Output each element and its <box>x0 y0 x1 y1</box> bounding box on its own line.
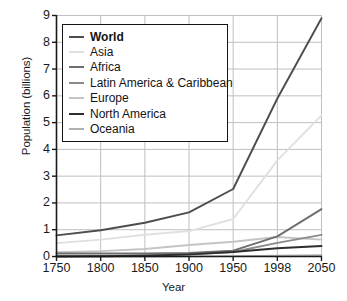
y-tick-label: 2 <box>34 196 50 209</box>
legend-item-north-america[interactable]: North America <box>69 106 222 121</box>
y-tick-label: 8 <box>34 36 50 49</box>
x-tick-label: 2050 <box>299 262 345 275</box>
x-tick-label: 1950 <box>210 262 256 275</box>
legend-swatch-icon <box>69 66 84 68</box>
legend-item-asia[interactable]: Asia <box>69 44 222 59</box>
legend-swatch-icon <box>69 36 84 38</box>
legend-item-label: Latin America & Caribbean <box>90 77 233 89</box>
y-tick-label: 7 <box>34 63 50 76</box>
x-tick-label: 1998 <box>254 262 300 275</box>
y-axis-title: Population (billions) <box>20 6 32 206</box>
x-tick-label: 1750 <box>34 262 80 275</box>
y-tick-label: 1 <box>34 223 50 236</box>
legend: WorldAsiaAfricaLatin America & Caribbean… <box>62 24 228 142</box>
x-tick-label: 1900 <box>166 262 212 275</box>
y-tick-label: 6 <box>34 89 50 102</box>
legend-item-label: North America <box>90 108 166 120</box>
x-axis-title: Year <box>0 281 347 293</box>
y-tick-label: 3 <box>34 170 50 183</box>
legend-item-label: Europe <box>90 92 129 104</box>
legend-item-oceania[interactable]: Oceania <box>69 121 222 136</box>
legend-swatch-icon <box>69 97 84 99</box>
legend-swatch-icon <box>69 113 84 115</box>
legend-item-world[interactable]: World <box>69 29 222 44</box>
legend-item-label: World <box>90 31 124 43</box>
y-tick-label: 4 <box>34 143 50 156</box>
legend-swatch-icon <box>69 51 84 53</box>
legend-item-africa[interactable]: Africa <box>69 60 222 75</box>
y-tick-label: 9 <box>34 9 50 22</box>
legend-item-europe[interactable]: Europe <box>69 91 222 106</box>
population-line-chart: Population (billions) 0123456789 1750180… <box>0 0 347 301</box>
y-tick-label: 5 <box>34 116 50 129</box>
legend-swatch-icon <box>69 82 84 84</box>
legend-item-label: Asia <box>90 46 113 58</box>
x-tick-label: 1850 <box>122 262 168 275</box>
x-tick-label: 1800 <box>78 262 124 275</box>
x-axis-tick-labels: 1750180018501900195019982050 <box>0 262 347 280</box>
y-axis-tick-labels: 0123456789 <box>32 0 50 301</box>
legend-item-label: Africa <box>90 61 121 73</box>
legend-item-latin-america-caribbean[interactable]: Latin America & Caribbean <box>69 75 222 90</box>
legend-swatch-icon <box>69 128 84 130</box>
legend-item-label: Oceania <box>90 123 135 135</box>
